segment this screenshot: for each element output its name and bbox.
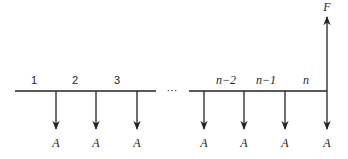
payment-label: A bbox=[91, 136, 100, 150]
future-value: F bbox=[322, 0, 331, 91]
timeline: ··· bbox=[15, 84, 327, 96]
timeline-ellipsis: ··· bbox=[167, 84, 178, 96]
payment-label: A bbox=[239, 136, 248, 150]
period-label-1: 1 bbox=[31, 74, 37, 86]
payment-label: A bbox=[199, 136, 208, 150]
cash-flow-diagram: ··· 1 2 3 n−2 n−1 n A A A A A A A F bbox=[0, 0, 348, 159]
period-label-n-minus-1: n−1 bbox=[256, 73, 276, 87]
payment-label: A bbox=[51, 136, 60, 150]
period-label-n-minus-2: n−2 bbox=[216, 73, 236, 87]
future-value-label: F bbox=[322, 0, 331, 14]
payment-arrows bbox=[56, 91, 327, 129]
payment-label: A bbox=[280, 136, 289, 150]
period-label-n: n bbox=[303, 73, 309, 87]
period-label-3: 3 bbox=[114, 74, 120, 86]
payment-label: A bbox=[322, 136, 331, 150]
payment-label: A bbox=[132, 136, 141, 150]
payment-labels: A A A A A A A bbox=[51, 136, 331, 150]
period-label-2: 2 bbox=[72, 74, 78, 86]
